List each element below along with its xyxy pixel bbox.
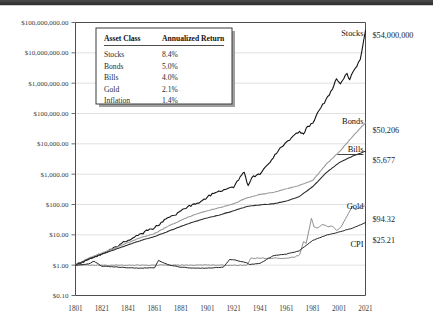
- y-tick-label: $1.00: [53, 262, 69, 270]
- x-tick-label: 1821: [95, 305, 110, 313]
- endpoint-value-bills: $5,677: [373, 156, 396, 165]
- endpoint-value-bonds: $50,206: [373, 126, 400, 135]
- legend-asset-stocks: Stocks: [104, 50, 124, 59]
- legend-header-annualized-return: Annualized Return: [162, 34, 225, 43]
- y-tick-label: $10.00: [49, 231, 69, 239]
- x-tick-label: 1881: [174, 305, 189, 313]
- legend-asset-inflation: Inflation: [104, 96, 130, 105]
- legend-return-bonds: 5.0%: [162, 62, 178, 71]
- y-tick-label: $10,000.00: [37, 140, 69, 148]
- y-tick-label: $100,000,000.00: [21, 19, 69, 27]
- x-tick-label: 2021: [358, 305, 373, 313]
- y-tick-label: $1,000.00: [41, 171, 70, 179]
- y-tick-label: $10,000,000.00: [25, 49, 69, 57]
- y-axis-tick-labels: $100,000,000.00$10,000,000.00$1,000,000.…: [21, 19, 75, 300]
- series-label-stocks: Stocks: [341, 29, 363, 38]
- x-tick-label: 1801: [68, 305, 83, 313]
- x-axis-tick-labels: 1801182118411861188119011921194119611981…: [68, 305, 373, 313]
- chart-screenshot: $100,000,000.00$10,000,000.00$1,000,000.…: [0, 0, 433, 331]
- series-label-bills: Bills: [348, 145, 364, 154]
- legend-return-bills: 4.0%: [162, 73, 178, 82]
- x-tick-label: 1961: [279, 305, 294, 313]
- series-endpoint-values: $54,000,000$50,206$5,677$94.32$25.21: [373, 31, 414, 245]
- x-tick-label: 1861: [147, 305, 162, 313]
- series-label-cpi: CPI: [350, 240, 363, 249]
- series-label-bonds: Bonds: [342, 117, 363, 126]
- legend-table: Asset ClassAnnualized ReturnStocks8.4%Bo…: [96, 28, 235, 107]
- series-label-gold: Gold: [347, 202, 365, 211]
- y-tick-label: $0.10: [53, 292, 69, 300]
- x-tick-label: 1901: [200, 305, 215, 313]
- endpoint-value-gold: $94.32: [373, 215, 396, 224]
- x-tick-label: 2001: [332, 305, 347, 313]
- y-tick-label: $1,000,000.00: [28, 80, 69, 88]
- legend-asset-gold: Gold: [104, 85, 119, 94]
- legend-return-inflation: 1.4%: [162, 96, 178, 105]
- total-return-chart: $100,000,000.00$10,000,000.00$1,000,000.…: [0, 0, 433, 331]
- endpoint-value-stocks: $54,000,000: [373, 31, 414, 40]
- y-tick-label: $100.00: [46, 201, 69, 209]
- y-tick-label: $100,000.00: [34, 110, 70, 118]
- legend-return-stocks: 8.4%: [162, 50, 178, 59]
- endpoint-value-cpi: $25.21: [373, 236, 396, 245]
- x-tick-label: 1921: [226, 305, 241, 313]
- legend-return-gold: 2.1%: [162, 85, 178, 94]
- legend-asset-bills: Bills: [104, 73, 118, 82]
- x-tick-label: 1941: [253, 305, 268, 313]
- x-tick-label: 1981: [306, 305, 321, 313]
- x-tick-label: 1841: [121, 305, 136, 313]
- legend-asset-bonds: Bonds: [104, 62, 123, 71]
- legend-header-asset-class: Asset Class: [104, 34, 141, 43]
